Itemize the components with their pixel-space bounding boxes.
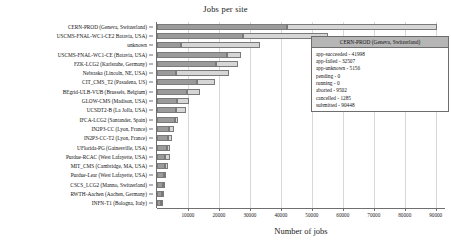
y-tick <box>149 147 153 148</box>
tooltip-row: app-failed - 32507 <box>312 57 448 64</box>
y-tick <box>149 166 153 167</box>
bar-segment-app-succeeded[interactable] <box>157 52 227 58</box>
x-tick <box>219 208 220 211</box>
bar-segment-app-succeeded[interactable] <box>157 79 197 85</box>
bar-segment-app-failed[interactable] <box>216 61 238 67</box>
bar-segment-app-failed[interactable] <box>187 89 200 95</box>
y-axis-label: RWTH-Aachen (Aachen, Germany) <box>70 191 147 197</box>
bar-segment-app-succeeded[interactable] <box>157 98 177 104</box>
x-tick <box>405 208 406 211</box>
y-tick <box>149 203 153 204</box>
y-tick <box>149 35 153 36</box>
y-axis-label: UCSDT2-B (La Jolla, USA) <box>87 107 147 113</box>
bar-segment-app-failed[interactable] <box>177 98 189 104</box>
y-axis-label: USCMS-FNAL-WC1-CE (Batavia, USA) <box>58 52 147 58</box>
tooltip-row: submitted - 90448 <box>312 102 448 109</box>
bar-segment-app-succeeded[interactable] <box>157 135 168 141</box>
grid-line <box>219 22 220 208</box>
bar-segment-app-succeeded[interactable] <box>157 89 187 95</box>
y-axis-label: GLOW-CMS (Madison, USA) <box>82 98 147 104</box>
bar-segment-app-failed[interactable] <box>176 70 230 76</box>
tooltip-row: pending - 0 <box>312 72 448 79</box>
y-axis-label: MIT_CMS (Cambridge, MA, USA) <box>71 163 147 169</box>
bar-segment-app-failed[interactable] <box>168 135 173 141</box>
bar-segment-app-succeeded[interactable] <box>157 163 165 169</box>
y-tick <box>149 91 153 92</box>
bar-segment-app-failed[interactable] <box>162 191 164 197</box>
bar-segment-app-succeeded[interactable] <box>157 145 167 151</box>
tooltip-row: app-succeeded - 41998 <box>312 50 448 57</box>
y-axis-label: FZK-LCG2 (Karlsruhe, Germany) <box>74 61 147 67</box>
bar-segment-app-failed[interactable] <box>287 24 437 30</box>
x-tick-label: 90000 <box>429 212 442 218</box>
x-tick <box>312 208 313 211</box>
y-tick <box>149 138 153 139</box>
x-tick-label: 70000 <box>367 212 380 218</box>
tooltip-row: cancelled - 1285 <box>312 94 448 101</box>
bar-segment-app-failed[interactable] <box>161 200 163 206</box>
y-tick <box>149 194 153 195</box>
x-axis-line <box>157 208 445 209</box>
y-axis-label: IN2P3-CC-T2 (Lyon, France) <box>84 135 147 141</box>
bar-segment-app-succeeded[interactable] <box>157 117 175 123</box>
x-tick <box>374 208 375 211</box>
bar-segment-app-failed[interactable] <box>227 52 241 58</box>
y-axis-label: BEgrid-ULB-VUB (Brussels, Belgium) <box>63 89 147 95</box>
tooltip-rows: app-succeeded - 41998app-failed - 32507a… <box>312 48 448 111</box>
tooltip-row: running - 0 <box>312 79 448 86</box>
y-tick <box>149 63 153 64</box>
bar-segment-app-failed[interactable] <box>169 126 174 132</box>
bar-segment-app-failed[interactable] <box>165 154 170 160</box>
y-axis-label: IN2P3-CC (Lyon, France) <box>92 126 147 132</box>
chart-title: Jobs per site <box>0 4 451 14</box>
y-axis-label: UFlorida-PG (Gainesville, USA) <box>77 145 147 151</box>
y-axis-label: CSCS_LCG2 (Manno, Switzerland) <box>70 182 147 188</box>
bar-segment-app-succeeded[interactable] <box>157 61 216 67</box>
bar-segment-app-succeeded[interactable] <box>157 154 165 160</box>
bar-segment-app-succeeded[interactable] <box>157 126 169 132</box>
x-axis-label: Number of jobs <box>157 226 445 236</box>
bar-segment-app-failed[interactable] <box>164 172 167 178</box>
bar-segment-app-succeeded[interactable] <box>157 33 243 39</box>
bar-segment-app-failed[interactable] <box>197 79 215 85</box>
x-tick <box>281 208 282 211</box>
chart-canvas: Jobs per site CERN-PROD (Geneva, Switzer… <box>0 0 451 245</box>
x-tick-label: 60000 <box>336 212 349 218</box>
y-tick <box>149 156 153 157</box>
y-axis-category-labels: CERN-PROD (Geneva, Switzerland)USCMS-FNA… <box>0 22 155 208</box>
y-axis-label: Purdue-Lear (West Lafayette, USA) <box>71 172 147 178</box>
y-tick <box>149 54 153 55</box>
x-tick-label: 40000 <box>274 212 287 218</box>
y-tick <box>149 101 153 102</box>
y-tick <box>149 119 153 120</box>
bar-segment-app-succeeded[interactable] <box>157 107 176 113</box>
y-tick <box>149 175 153 176</box>
x-tick-label: 20000 <box>212 212 225 218</box>
y-axis-label: CIT_CMS_T2 (Pasadena, US) <box>82 79 147 85</box>
x-tick-label: 10000 <box>181 212 194 218</box>
bar-segment-app-succeeded[interactable] <box>157 42 181 48</box>
tooltip-row: app-unknown - 5156 <box>312 65 448 72</box>
x-tick-label: 80000 <box>398 212 411 218</box>
grid-line <box>281 22 282 208</box>
bar-segment-app-succeeded[interactable] <box>157 24 287 30</box>
bar-segment-app-failed[interactable] <box>176 107 186 113</box>
y-tick <box>149 128 153 129</box>
y-tick <box>149 45 153 46</box>
y-tick <box>149 26 153 27</box>
y-axis-label: unknown <box>127 42 147 48</box>
bar-segment-app-failed[interactable] <box>175 117 178 123</box>
y-axis-label: INFN-T1 (Bologna, Italy) <box>92 200 147 206</box>
grid-line <box>188 22 189 208</box>
y-tick <box>149 184 153 185</box>
x-tick <box>250 208 251 211</box>
tooltip-row: aborted - 9502 <box>312 87 448 94</box>
x-tick <box>343 208 344 211</box>
grid-line <box>250 22 251 208</box>
bar-segment-app-failed[interactable] <box>165 163 168 169</box>
bar-segment-app-failed[interactable] <box>167 145 171 151</box>
bar-segment-app-failed[interactable] <box>181 42 260 48</box>
bar-segment-app-succeeded[interactable] <box>157 70 176 76</box>
y-tick <box>149 82 153 83</box>
bar-segment-app-failed[interactable] <box>163 182 165 188</box>
